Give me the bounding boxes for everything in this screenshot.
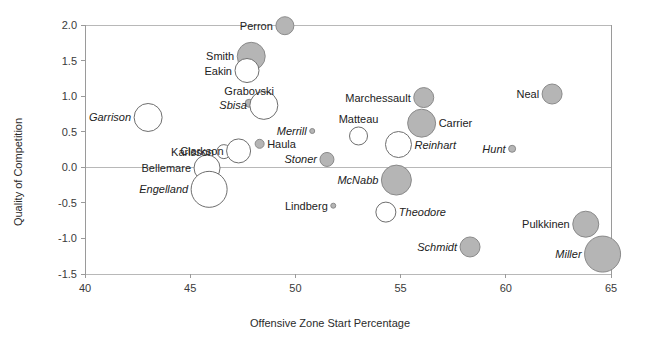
data-point-label: Eakin: [204, 65, 232, 77]
data-point-label: Carrier: [439, 117, 473, 129]
data-point-label: Smith: [206, 50, 234, 62]
data-point-label: Lindberg: [285, 200, 328, 212]
data-point-bubble[interactable]: [381, 165, 411, 195]
data-point-label: Schmidt: [417, 241, 458, 253]
y-tick-label: -1.5: [58, 268, 77, 280]
x-tick-label: 55: [394, 282, 406, 294]
x-axis-title: Offensive Zone Start Percentage: [250, 317, 410, 329]
data-point-bubble[interactable]: [376, 202, 396, 222]
data-point-bubble[interactable]: [320, 152, 334, 166]
data-point-label: McNabb: [337, 174, 378, 186]
data-point-label: Pulkkinen: [522, 218, 570, 230]
data-point-label: Haula: [267, 138, 297, 150]
data-point-label: Stoner: [285, 153, 319, 165]
gridlines: [85, 25, 611, 274]
data-point-labels: PerronSmithEakinGrabovskiSbisaGarrisonMa…: [89, 20, 583, 260]
x-tick-label: 65: [605, 282, 617, 294]
y-tick-label: -0.5: [58, 197, 77, 209]
data-point-bubble[interactable]: [134, 103, 162, 131]
data-point-bubble[interactable]: [542, 84, 562, 104]
data-point-label: Matteau: [339, 113, 379, 125]
x-tick-label: 50: [289, 282, 301, 294]
data-point-bubble[interactable]: [460, 237, 480, 257]
y-tick-label: 2.0: [62, 19, 77, 31]
data-point-bubble[interactable]: [191, 171, 227, 207]
x-axis-ticks: 404550556065: [79, 274, 617, 294]
data-point-label: Grabovski: [224, 85, 274, 97]
plot-area: 2.01.51.00.50.0-0.5-1.0-1.5 404550556065…: [0, 0, 648, 341]
data-point-label: Theodore: [399, 206, 446, 218]
data-point-label: Clarkson: [180, 145, 223, 157]
data-point-bubble[interactable]: [227, 139, 251, 163]
data-point-bubble[interactable]: [385, 132, 411, 158]
data-point-bubble[interactable]: [573, 211, 599, 237]
data-point-label: Engelland: [139, 183, 189, 195]
y-axis-ticks: 2.01.51.00.50.0-0.5-1.0-1.5: [58, 19, 85, 280]
y-axis-title: Quality of Competition: [12, 118, 24, 226]
data-point-bubble[interactable]: [255, 139, 264, 148]
data-point-label: Reinhart: [414, 139, 457, 151]
x-tick-label: 45: [184, 282, 196, 294]
x-tick-label: 40: [79, 282, 91, 294]
axes: [85, 25, 611, 274]
data-point-label: Marchessault: [345, 92, 410, 104]
data-point-bubble[interactable]: [585, 236, 621, 272]
scatter-chart: 2.01.51.00.50.0-0.5-1.0-1.5 404550556065…: [0, 0, 648, 341]
y-tick-label: 0.0: [62, 161, 77, 173]
data-point-label: Bellemare: [142, 162, 192, 174]
y-tick-label: 0.5: [62, 126, 77, 138]
data-point-label: Neal: [516, 88, 539, 100]
data-point-bubble[interactable]: [414, 88, 434, 108]
data-point-label: Perron: [240, 20, 273, 32]
y-tick-label: 1.0: [62, 90, 77, 102]
data-point-label: Miller: [555, 248, 583, 260]
y-tick-label: 1.5: [62, 55, 77, 67]
y-tick-label: -1.0: [58, 232, 77, 244]
data-point-bubble[interactable]: [276, 17, 294, 35]
data-point-label: Sbisa: [219, 99, 247, 111]
data-point-label: Hunt: [482, 143, 506, 155]
data-point-bubble[interactable]: [331, 203, 336, 208]
data-point-label: Garrison: [89, 111, 131, 123]
data-point-label: Merrill: [277, 125, 307, 137]
data-point-bubble[interactable]: [408, 109, 436, 137]
data-point-bubble[interactable]: [310, 129, 315, 134]
data-point-bubble[interactable]: [235, 59, 259, 83]
data-point-bubble[interactable]: [509, 145, 516, 152]
x-tick-label: 60: [500, 282, 512, 294]
data-point-bubble[interactable]: [350, 127, 368, 145]
